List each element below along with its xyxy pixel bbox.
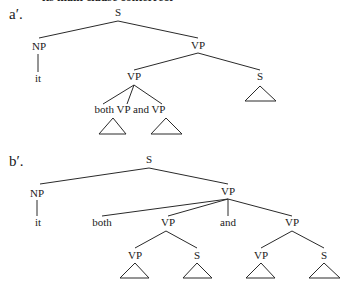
node-vp-rl: VP: [254, 249, 268, 261]
triangle-vp1: [99, 118, 126, 134]
edge-vp-vpright: [228, 199, 292, 216]
edge-vpmid-vp2: [134, 85, 162, 104]
syntax-tree-diagram: its main clause conterrect a′. S NP it V…: [0, 0, 356, 293]
node-it: it: [35, 216, 41, 228]
tree-a-prime: a′. S NP it VP VP S both VP and VP: [9, 6, 276, 134]
node-vp-top: VP: [191, 39, 205, 51]
edge-vpright-vp: [261, 231, 292, 248]
cut-off-header: its main clause conterrect: [42, 0, 173, 4]
edge-vp-vpleft: [168, 199, 228, 216]
edge-vp-both: [102, 199, 228, 216]
node-and: and: [220, 216, 236, 228]
node-it: it: [35, 72, 41, 84]
node-s: S: [115, 6, 121, 18]
triangle-vp2: [151, 118, 182, 134]
edge-vpmid-both: [103, 85, 134, 104]
edge-s-vp: [118, 21, 198, 38]
node-np: NP: [30, 187, 44, 199]
node-np: NP: [32, 40, 46, 52]
triangle-s-rr: [309, 263, 340, 278]
edge-s-np: [39, 21, 118, 38]
node-vp-right: VP: [285, 216, 299, 228]
node-coordination: both VP and VP: [94, 103, 165, 115]
triangle-vp-rl: [246, 263, 275, 278]
node-both: both: [92, 216, 112, 228]
node-vp-top: VP: [221, 185, 235, 197]
edge-vpleft-vp: [135, 231, 166, 248]
node-vp-mid: VP: [127, 70, 141, 82]
edge-vpleft-s: [166, 231, 197, 248]
example-label-b: b′.: [9, 153, 24, 169]
triangle-vp-ll: [120, 263, 149, 278]
node-s-right: S: [257, 70, 263, 82]
node-vp-ll: VP: [128, 249, 142, 261]
edge-s-np: [40, 168, 149, 184]
edge-s-vp: [149, 168, 228, 184]
node-vp-left: VP: [161, 216, 175, 228]
tree-b-prime: b′. S NP it VP both VP and VP VP S VP S: [9, 153, 340, 278]
triangle-s-lr: [183, 263, 212, 278]
edge-vp-vpmid: [134, 53, 198, 70]
node-s-lr: S: [194, 249, 200, 261]
edge-vp-s: [198, 53, 260, 70]
edge-vpright-s: [292, 231, 324, 248]
example-label-a: a′.: [9, 6, 23, 22]
edge-vpmid-vp1: [127, 85, 134, 104]
node-s-rr: S: [321, 249, 327, 261]
triangle-s-right: [245, 86, 276, 101]
node-s: S: [146, 153, 152, 165]
